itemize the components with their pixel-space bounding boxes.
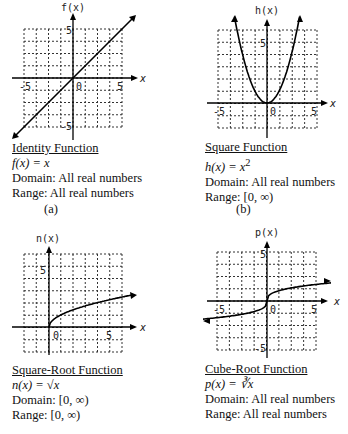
range-text: Range: All real numbers <box>12 186 142 201</box>
function-equation: p(x) = ∛x <box>205 377 335 392</box>
identity-graph: f(x) x -5 0 5 5 -5 <box>0 0 174 140</box>
tick-zero: 0 <box>76 81 82 92</box>
tick-y-pos5: 5 <box>40 265 46 276</box>
range-text: Range: All real numbers <box>205 407 335 422</box>
function-equation: n(x) = √x <box>12 378 123 393</box>
y-axis-label: n(x) <box>36 233 60 244</box>
tick-pos5: 5 <box>311 106 317 117</box>
cube-root-caption: Cube-Root Function p(x) = ∛x Domain: All… <box>205 362 335 422</box>
function-title: Cube-Root Function <box>205 362 335 377</box>
sublabel: (a) <box>44 202 58 217</box>
panel-cube-root: p(x) x -5 0 5 5 -5 Cube-Root Function p(… <box>174 220 348 434</box>
tick-neg5: -5 <box>19 81 31 92</box>
tick-neg5: -5 <box>213 304 225 315</box>
tick-y-neg5: -5 <box>60 121 72 132</box>
tick-y-neg5: -5 <box>254 343 266 354</box>
square-caption: Square Function h(x) = x2 Domain: All re… <box>205 140 335 205</box>
domain-text: Domain: All real numbers <box>12 171 142 186</box>
x-axis-label: x <box>333 296 340 307</box>
y-axis-label: p(x) <box>255 227 279 238</box>
y-axis-label: h(x) <box>255 5 279 16</box>
x-axis-label: x <box>329 98 336 109</box>
panel-square-root: n(x) x 0 5 5 Square-Root Function n(x) =… <box>0 220 174 434</box>
range-text: Range: [0, ∞) <box>205 190 335 205</box>
tick-pos5: 5 <box>311 304 317 315</box>
tick-pos5: 5 <box>106 330 112 341</box>
range-text: Range: [0, ∞) <box>12 408 123 423</box>
function-equation: h(x) = x2 <box>205 155 335 175</box>
x-axis-label: x <box>139 73 146 84</box>
square-graph: h(x) x -5 0 5 5 <box>174 0 348 140</box>
function-title: Identity Function <box>12 141 142 156</box>
function-title: Square Function <box>205 140 335 155</box>
identity-caption: Identity Function f(x) = x Domain: All r… <box>12 141 142 201</box>
square-root-graph: n(x) x 0 5 5 <box>0 220 174 360</box>
tick-zero: 0 <box>270 106 276 117</box>
domain-text: Domain: [0, ∞) <box>12 393 123 408</box>
function-title: Square-Root Function <box>12 363 123 378</box>
panel-identity: f(x) x -5 0 5 5 -5 Identity Function f(x… <box>0 0 174 220</box>
sublabel: (b) <box>236 202 251 217</box>
square-root-caption: Square-Root Function n(x) = √x Domain: [… <box>12 363 123 423</box>
tick-pos5: 5 <box>117 81 123 92</box>
domain-text: Domain: All real numbers <box>205 175 335 190</box>
tick-y-pos5: 5 <box>260 38 266 49</box>
function-equation: f(x) = x <box>12 156 142 171</box>
domain-text: Domain: All real numbers <box>205 392 335 407</box>
tick-zero: 0 <box>270 304 276 315</box>
cube-root-graph: p(x) x -5 0 5 5 -5 <box>174 220 348 360</box>
tick-y-pos5: 5 <box>260 249 266 260</box>
tick-y-pos5: 5 <box>66 25 72 36</box>
tick-zero: 0 <box>53 330 59 341</box>
tick-neg5: -5 <box>213 106 225 117</box>
y-axis-label: f(x) <box>61 2 85 13</box>
x-axis-label: x <box>139 322 146 333</box>
panel-square: h(x) x -5 0 5 5 Square Function h(x) = x… <box>174 0 348 220</box>
